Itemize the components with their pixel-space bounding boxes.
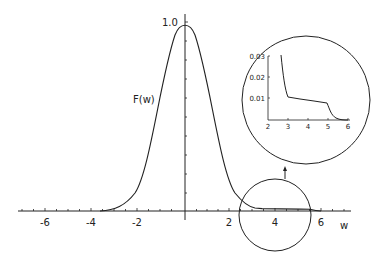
x-tick-label: -6: [40, 217, 50, 228]
x-tick-label: 6: [318, 217, 324, 228]
highlight-circle: [239, 179, 311, 251]
inset-x-tick-label: 6: [346, 123, 351, 131]
x-tick-label: 2: [226, 217, 232, 228]
arrow-head-icon: [283, 166, 287, 171]
inset-x-tick-label: 2: [266, 123, 270, 131]
inset-y-tick-label: 0.01: [249, 95, 265, 103]
inset-y-tick-label: 0.02: [249, 74, 265, 82]
x-tick-label: 4: [272, 217, 278, 228]
inset-x-tick-label: 4: [306, 123, 311, 131]
x-tick-label: -2: [132, 217, 142, 228]
inset-x-tick-label: 3: [286, 123, 290, 131]
peak-label: 1.0: [162, 17, 178, 28]
x-axis-label: w: [340, 220, 348, 231]
y-axis-label: F(w): [133, 94, 155, 105]
inset-x-tick-label: 5: [326, 123, 330, 131]
x-tick-label: -4: [86, 217, 96, 228]
inset-y-tick-label: 0.03: [249, 53, 265, 61]
chart: -6 -4 -2 2 4 6 w 1.0 F(w) 0.03 0.02 0.01…: [0, 0, 374, 264]
